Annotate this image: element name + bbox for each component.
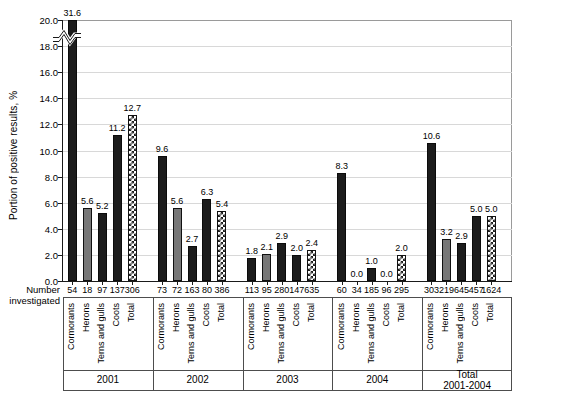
y-tick-label: 16.0 bbox=[0, 68, 58, 77]
number-investigated-cell: 635 bbox=[298, 285, 326, 295]
bar-value-label: 2.4 bbox=[298, 239, 326, 248]
bar bbox=[427, 143, 436, 281]
number-investigated-line1: Number bbox=[2, 284, 60, 295]
bar-value-label: 9.6 bbox=[148, 145, 176, 154]
bar bbox=[202, 199, 211, 281]
chart-root: Portion of positive results, % 0.02.04.0… bbox=[0, 0, 574, 401]
bar bbox=[487, 216, 496, 281]
year-label-line2: 2001-2004 bbox=[443, 381, 491, 392]
bar-value-label: 31.6 bbox=[58, 9, 86, 18]
bar-value-label: 10.6 bbox=[417, 132, 445, 141]
number-investigated-cell: 1624 bbox=[477, 285, 505, 295]
y-tick-label: 20.0 bbox=[0, 16, 58, 25]
bar-value-label: 8.3 bbox=[328, 162, 356, 171]
year-label: 2002 bbox=[153, 370, 243, 391]
y-tick-label: 8.0 bbox=[0, 173, 58, 182]
number-investigated-cell: 295 bbox=[388, 285, 416, 295]
bar bbox=[128, 115, 137, 281]
bar-value-label: 5.4 bbox=[208, 200, 236, 209]
bar bbox=[217, 211, 226, 281]
gridline bbox=[63, 46, 512, 47]
bar bbox=[113, 135, 122, 281]
bar bbox=[457, 243, 466, 281]
year-label: Total2001-2004 bbox=[422, 370, 512, 391]
bar-value-label: 5.0 bbox=[477, 205, 505, 214]
year-label: 2003 bbox=[243, 370, 333, 391]
y-tick-label: 4.0 bbox=[0, 225, 58, 234]
bar bbox=[158, 156, 167, 281]
bar bbox=[472, 216, 481, 281]
number-investigated-label: Number investigated bbox=[2, 284, 60, 306]
year-label: 2004 bbox=[332, 370, 422, 391]
gridline bbox=[63, 98, 512, 99]
number-investigated-cell: 306 bbox=[118, 285, 146, 295]
y-tick-label: 14.0 bbox=[0, 94, 58, 103]
bar bbox=[307, 250, 316, 281]
bar bbox=[262, 254, 271, 281]
bar-value-label: 2.0 bbox=[388, 244, 416, 253]
number-investigated-line2: investigated bbox=[2, 295, 60, 306]
gridline bbox=[63, 72, 512, 73]
year-label-line1: Total bbox=[457, 370, 478, 381]
bar-value-label: 1.0 bbox=[358, 257, 386, 266]
year-label: 2001 bbox=[63, 370, 153, 391]
number-investigated-cell: 386 bbox=[208, 285, 236, 295]
bar bbox=[442, 239, 451, 281]
bar bbox=[83, 208, 92, 281]
y-tick-label: 18.0 bbox=[0, 42, 58, 51]
bar-value-label: 12.7 bbox=[118, 104, 146, 113]
bar bbox=[397, 255, 406, 281]
bar bbox=[292, 255, 301, 281]
bar-value-label: 6.3 bbox=[193, 188, 221, 197]
bar bbox=[68, 20, 77, 281]
y-axis-line bbox=[62, 20, 63, 282]
bar bbox=[247, 258, 256, 281]
x-axis-line bbox=[62, 281, 512, 282]
y-tick-label: 6.0 bbox=[0, 199, 58, 208]
y-tick-label: 12.0 bbox=[0, 120, 58, 129]
bar bbox=[188, 246, 197, 281]
y-tick-label: 2.0 bbox=[0, 251, 58, 260]
y-tick-label: 10.0 bbox=[0, 147, 58, 156]
bar bbox=[173, 208, 182, 281]
bar bbox=[337, 173, 346, 281]
bar bbox=[98, 213, 107, 281]
bar-value-label: 2.9 bbox=[268, 232, 296, 241]
bar-value-label: 5.6 bbox=[163, 197, 191, 206]
